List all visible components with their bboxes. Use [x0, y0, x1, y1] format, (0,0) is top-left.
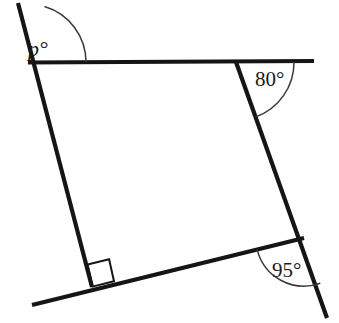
angle-label-95: 95° [272, 258, 301, 282]
arc-angle-p [45, 7, 87, 63]
edge-top [28, 61, 314, 63]
right-angle-icon [88, 259, 114, 286]
angle-label-p: p° [26, 36, 48, 61]
angle-label-80: 80° [255, 67, 284, 91]
geometry-diagram: p° 80° 95° [0, 0, 339, 323]
geometry-canvas: p° 80° 95° [0, 0, 339, 323]
edge-bottom [32, 238, 304, 305]
